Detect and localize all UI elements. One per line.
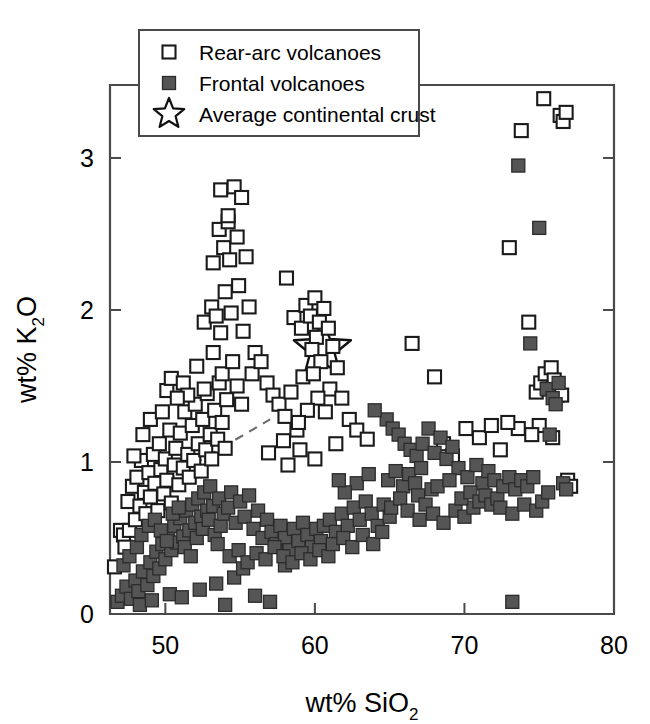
frontal-point	[542, 486, 555, 499]
y-tick-label: 1	[80, 448, 94, 476]
rear-arc-point	[284, 386, 297, 399]
frontal-point	[232, 544, 245, 557]
frontal-point	[461, 471, 474, 484]
frontal-point	[359, 495, 372, 508]
frontal-point	[518, 498, 531, 511]
rear-arc-point	[226, 355, 239, 368]
rear-arc-point	[560, 106, 573, 119]
x-axis-label: wt% SiO2	[305, 688, 419, 724]
frontal-point	[184, 550, 197, 563]
rear-arc-point	[231, 231, 244, 244]
frontal-point	[422, 422, 435, 435]
frontal-point	[204, 480, 217, 493]
rear-arc-point	[214, 183, 227, 196]
rear-arc-point	[195, 465, 208, 478]
rear-arc-point	[292, 416, 305, 429]
rear-arc-point	[144, 490, 157, 503]
frontal-point	[214, 519, 227, 532]
frontal-point	[163, 588, 176, 601]
rear-arc-point	[127, 449, 140, 462]
rear-arc-point	[293, 443, 306, 456]
frontal-point	[202, 513, 215, 526]
frontal-point	[397, 480, 410, 493]
rear-arc-point	[278, 410, 291, 423]
frontal-point	[415, 462, 428, 475]
rear-arc-point	[207, 346, 220, 359]
rear-arc-point	[219, 285, 232, 298]
frontal-point	[222, 501, 235, 514]
rear-arc-point	[406, 337, 419, 350]
frontal-point	[443, 474, 456, 487]
frontal-point	[130, 541, 143, 554]
rear-arc-point	[501, 416, 514, 429]
frontal-point	[416, 437, 429, 450]
frontal-point	[512, 159, 525, 172]
rear-arc-point	[515, 124, 528, 137]
rear-arc-point	[305, 343, 318, 356]
rear-arc-point	[207, 256, 220, 269]
frontal-point	[367, 538, 380, 551]
rear-arc-point	[246, 367, 259, 380]
rear-arc-point	[537, 92, 550, 105]
rear-arc-point	[177, 376, 190, 389]
frontal-point	[437, 516, 450, 529]
rear-arc-point	[459, 422, 472, 435]
rear-arc-point	[262, 446, 275, 459]
frontal-point	[133, 598, 146, 611]
rear-arc-point	[308, 452, 321, 465]
rear-arc-point	[235, 398, 248, 411]
frontal-point	[296, 516, 309, 529]
frontal-point	[211, 538, 224, 551]
rear-arc-point	[243, 300, 256, 313]
rear-arc-point	[301, 404, 314, 417]
rear-arc-point	[322, 322, 335, 335]
frontal-point	[524, 337, 537, 350]
rear-arc-point	[295, 322, 308, 335]
y-tick-label: 3	[80, 144, 94, 172]
x-tick-label: 70	[451, 631, 479, 659]
rear-arc-point	[329, 437, 342, 450]
legend-marker-frontal	[163, 77, 176, 90]
frontal-point	[368, 404, 381, 417]
rear-arc-point	[210, 310, 223, 323]
rear-arc-point	[545, 361, 558, 374]
rear-arc-point	[216, 416, 229, 429]
frontal-point	[323, 513, 336, 526]
frontal-point	[172, 501, 185, 514]
frontal-point	[409, 477, 422, 490]
legend-label[interactable]: Average continental crust	[199, 103, 436, 126]
rear-arc-point	[205, 452, 218, 465]
frontal-point	[362, 468, 375, 481]
frontal-point	[506, 595, 519, 608]
y-tick-label: 2	[80, 296, 94, 324]
rear-arc-point	[428, 370, 441, 383]
rear-arc-point	[190, 360, 203, 373]
rear-arc-point	[317, 302, 330, 315]
y-tick-label: 0	[80, 600, 94, 628]
legend-marker-rear-arc	[163, 46, 176, 59]
frontal-point	[527, 471, 540, 484]
frontal-point	[145, 594, 158, 607]
rear-arc-point	[307, 367, 320, 380]
rear-arc-point	[240, 250, 253, 263]
frontal-point	[338, 486, 351, 499]
legend-label[interactable]: Rear-arc volcanoes	[199, 41, 381, 64]
frontal-point	[533, 221, 546, 234]
rear-arc-point	[314, 355, 327, 368]
x-tick-label: 60	[301, 631, 329, 659]
frontal-point	[413, 513, 426, 526]
rear-arc-point	[485, 419, 498, 432]
rear-arc-point	[222, 209, 235, 222]
frontal-point	[264, 595, 277, 608]
rear-arc-point	[255, 355, 268, 368]
legend-label[interactable]: Frontal volcanoes	[199, 72, 365, 95]
frontal-point	[365, 507, 378, 520]
frontal-point	[335, 507, 348, 520]
frontal-point	[346, 541, 359, 554]
frontal-point	[193, 583, 206, 596]
frontal-point	[243, 489, 256, 502]
frontal-point	[434, 431, 447, 444]
rear-arc-point	[216, 367, 229, 380]
rear-arc-point	[503, 241, 516, 254]
rear-arc-point	[361, 433, 374, 446]
